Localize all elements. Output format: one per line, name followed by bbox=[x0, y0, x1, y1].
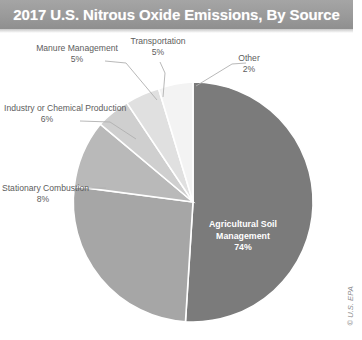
slice-label-agricultural-soil-management: Agricultural Soil Management 74% bbox=[185, 219, 301, 254]
callout-transportation-line1: Transportation bbox=[130, 36, 185, 46]
callout-stationary-line1: Stationary bbox=[2, 183, 41, 193]
pie-slice-agricultural-soil-management bbox=[185, 82, 313, 322]
callout-stationary-line2: Combustion bbox=[43, 183, 89, 193]
slice-label-agsoil-percent: 74% bbox=[185, 242, 301, 254]
callout-industry-line1: Industry or bbox=[4, 103, 45, 113]
callout-transportation-percent: 5% bbox=[110, 47, 206, 58]
callout-industry-percent: 6% bbox=[4, 114, 90, 125]
callout-industry-line2: Chemical bbox=[47, 103, 83, 113]
slice-label-agsoil-line1: Agricultural Soil bbox=[185, 219, 301, 231]
callout-stationary-percent: 8% bbox=[2, 194, 84, 205]
pie-slices bbox=[73, 82, 313, 322]
callout-industry-line3: Production bbox=[85, 103, 126, 113]
callout-other: Other 2% bbox=[218, 53, 280, 74]
slice-label-agsoil-line2: Management bbox=[185, 231, 301, 243]
pie-slice-stationary-combustion bbox=[73, 186, 193, 321]
figure-root: 2017 U.S. Nitrous Oxide Emissions, By So… bbox=[0, 0, 362, 340]
callout-stationary-combustion: Stationary Combustion 8% bbox=[2, 183, 84, 204]
callout-other-line1: Other bbox=[238, 53, 260, 63]
source-credit: © U.S. EPA bbox=[346, 256, 355, 326]
callout-transportation: Transportation 5% bbox=[110, 36, 206, 57]
callout-manure-line1: Manure bbox=[36, 43, 65, 53]
callout-other-percent: 2% bbox=[218, 64, 280, 75]
callout-industry-chemical-production: Industry or Chemical Production 6% bbox=[4, 103, 90, 124]
